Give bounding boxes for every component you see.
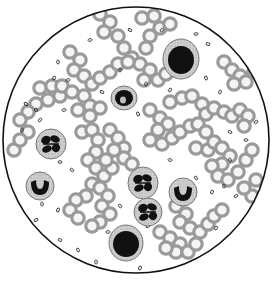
white-blood-cell-neutrophil — [128, 167, 158, 199]
red-blood-cell — [98, 26, 110, 38]
red-blood-cell — [72, 212, 84, 224]
red-blood-cell — [34, 82, 46, 94]
red-blood-cell — [238, 182, 250, 194]
red-blood-cell — [94, 102, 106, 114]
white-blood-cell-band — [169, 178, 197, 206]
red-blood-cell — [246, 144, 258, 156]
red-blood-cell — [190, 238, 202, 250]
white-blood-cell-lymphocyte — [109, 225, 143, 261]
red-blood-cell — [100, 154, 112, 166]
red-blood-cell — [136, 12, 148, 24]
red-blood-cell — [92, 134, 104, 146]
white-blood-cell-lymphocyte — [163, 39, 199, 79]
red-blood-cell — [164, 18, 176, 30]
red-blood-cell — [148, 10, 160, 22]
blood-smear-svg — [0, 0, 273, 281]
red-blood-cell — [190, 142, 202, 154]
red-blood-cell — [86, 220, 98, 232]
white-blood-cell-band — [26, 172, 54, 200]
platelet — [244, 58, 248, 63]
red-blood-cell — [228, 78, 240, 90]
red-blood-cell — [14, 114, 26, 126]
red-blood-cell — [232, 166, 244, 178]
wbc-cytoplasm — [26, 172, 54, 200]
red-blood-cell — [160, 242, 172, 254]
red-blood-cell — [14, 134, 26, 146]
red-blood-cell — [138, 74, 150, 86]
wbc-cytoplasm — [169, 178, 197, 206]
red-blood-cell — [112, 30, 124, 42]
red-blood-cell — [238, 120, 250, 132]
red-blood-cell — [122, 56, 134, 68]
red-blood-cell — [216, 204, 228, 216]
red-blood-cell — [72, 104, 84, 116]
wbc-nucleus — [113, 231, 139, 257]
white-blood-cell-monocyte — [111, 86, 137, 110]
red-blood-cell — [140, 42, 152, 54]
red-blood-cell — [250, 174, 262, 186]
microscope-field-illustration — [0, 0, 273, 281]
white-blood-cell-neutrophil — [36, 129, 66, 159]
wbc-nucleus — [168, 46, 194, 74]
white-blood-cell-neutrophil — [134, 198, 162, 226]
